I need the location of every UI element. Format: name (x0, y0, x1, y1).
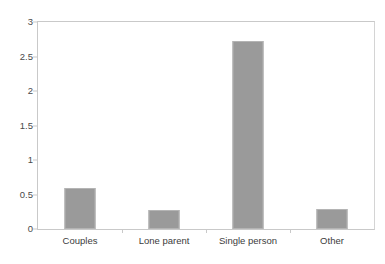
x-axis: CouplesLone parentSingle personOther (38, 232, 374, 252)
x-axis-tick-mark (122, 229, 123, 233)
y-axis-tick-label: 0 (0, 224, 33, 234)
x-axis-category-label: Other (320, 236, 344, 246)
bar-slot (38, 22, 122, 229)
bar-slot (122, 22, 206, 229)
x-axis-tick-mark (290, 229, 291, 233)
x-axis-category-label: Lone parent (139, 236, 190, 246)
x-axis-category-label: Couples (63, 236, 98, 246)
bar (317, 209, 348, 229)
bars-layer (38, 22, 374, 229)
bar (233, 41, 264, 229)
bar (149, 210, 180, 229)
y-axis-tick-label: 2.5 (0, 52, 33, 62)
y-axis-tick-label: 1 (0, 155, 33, 165)
x-axis-category-label: Single person (219, 236, 277, 246)
bar-slot (290, 22, 374, 229)
y-axis: 00.511.522.53 (0, 21, 33, 230)
y-axis-tick-label: 2 (0, 86, 33, 96)
bar-chart: 00.511.522.53 CouplesLone parentSingle p… (0, 0, 385, 264)
bar (65, 188, 96, 229)
bar-slot (206, 22, 290, 229)
y-axis-tick-label: 3 (0, 17, 33, 27)
y-axis-tick-label: 0.5 (0, 190, 33, 200)
x-axis-tick-mark (206, 229, 207, 233)
y-axis-tick-label: 1.5 (0, 121, 33, 131)
